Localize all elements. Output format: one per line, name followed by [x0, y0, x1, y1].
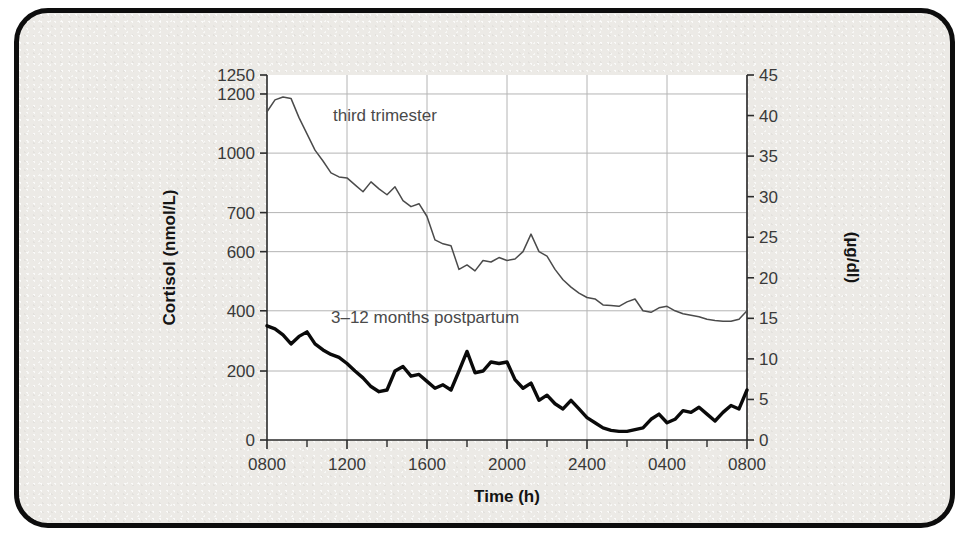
y-tick-label-left: 400 [227, 302, 255, 321]
y-tick-label-left: 200 [227, 362, 255, 381]
y-tick-label-right: 10 [759, 350, 778, 369]
y-tick-label-right: 45 [759, 66, 778, 85]
y-tick-label-right: 30 [759, 188, 778, 207]
x-tick-label: 1200 [328, 455, 366, 474]
x-tick-label: 0800 [248, 455, 286, 474]
y-tick-label-right: 15 [759, 309, 778, 328]
series-label-thin: third trimester [333, 106, 437, 125]
figure-frame: 1250120010007006004002000454035302520151… [14, 8, 955, 528]
x-tick-label: 2400 [568, 455, 606, 474]
x-tick-label: 2000 [488, 455, 526, 474]
x-tick-label: 0800 [728, 455, 766, 474]
y-tick-label-left: 600 [227, 243, 255, 262]
x-axis-title: Time (h) [474, 487, 540, 506]
x-tick-label: 1600 [408, 455, 446, 474]
series-label-thick: 3–12 months postpartum [331, 308, 519, 327]
y-tick-label-left: 1000 [217, 144, 255, 163]
y-axis-title-right: (µg/dl) [843, 232, 862, 283]
y-tick-label-left: 1250 [217, 66, 255, 85]
x-tick-label: 0400 [648, 455, 686, 474]
y-tick-label-left: 0 [246, 431, 255, 450]
y-tick-label-left: 700 [227, 204, 255, 223]
y-tick-label-right: 35 [759, 147, 778, 166]
y-tick-label-right: 5 [759, 390, 768, 409]
y-tick-label-right: 20 [759, 269, 778, 288]
y-tick-label-left: 1200 [217, 85, 255, 104]
y-tick-label-right: 40 [759, 107, 778, 126]
y-tick-label-right: 0 [759, 431, 768, 450]
y-axis-title-left: Cortisol (nmol/L) [160, 190, 179, 326]
cortisol-circadian-chart: 1250120010007006004002000454035302520151… [19, 13, 950, 523]
y-tick-label-right: 25 [759, 228, 778, 247]
